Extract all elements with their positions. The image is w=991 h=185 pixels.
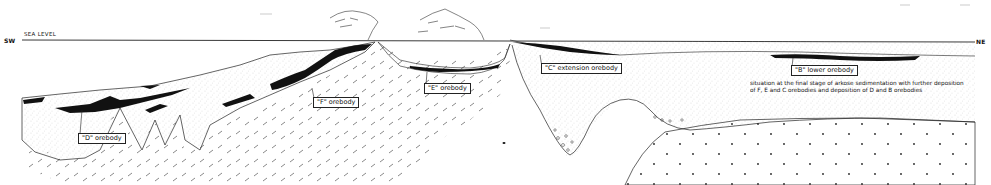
- f-orebody-label: "F" orebody: [313, 97, 359, 108]
- d-orebody-label: "D" orebody: [78, 133, 126, 144]
- ne-direction-label: NE: [976, 38, 986, 45]
- sea-level-label: SEA LEVEL: [24, 31, 56, 37]
- sw-direction-label: SW: [4, 37, 16, 44]
- e-orebody-label: "E" orebody: [424, 83, 471, 94]
- c-extension-orebody-label: "C" extension orebody: [541, 63, 622, 74]
- diagram-caption: situation at the final stage of arkose s…: [750, 81, 970, 94]
- mountain-sketch: [260, 5, 970, 40]
- b-lower-orebody-label: "B" lower orebody: [791, 65, 858, 76]
